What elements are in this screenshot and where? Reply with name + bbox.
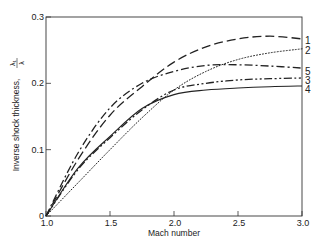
line-chart: 1.01.52.02.53.000.10.20.3 12345 Mach num… (0, 0, 322, 250)
plot-border (46, 17, 302, 216)
axis-ticks: 1.01.52.02.53.000.10.20.3 (31, 12, 309, 228)
x-tick-label: 2.5 (233, 218, 246, 228)
chart-container: 1.01.52.02.53.000.10.20.3 12345 Mach num… (0, 0, 322, 250)
curve-label-5: 5 (305, 66, 311, 77)
curve-4 (46, 86, 302, 216)
x-tick-label: 2.0 (169, 218, 182, 228)
x-tick-label: 3.0 (297, 218, 310, 228)
curve-3 (46, 78, 302, 216)
y-axis-fraction-numerator: λ₁ (9, 59, 16, 66)
x-tick-label: 1.5 (105, 218, 118, 228)
curve-label-4: 4 (305, 84, 311, 95)
curve-labels: 12345 (305, 35, 311, 95)
y-axis-title-text: Inverse shock thickness, (11, 79, 21, 172)
curve-1 (46, 36, 302, 216)
y-axis-fraction-denominator: λ (18, 61, 25, 65)
y-tick-label: 0.3 (31, 12, 44, 22)
curve-label-2: 2 (305, 45, 311, 56)
y-tick-label: 0 (39, 211, 44, 221)
plot-frame (46, 17, 302, 216)
curve-2 (46, 49, 302, 216)
y-tick-label: 0.1 (31, 145, 44, 155)
y-tick-label: 0.2 (31, 78, 44, 88)
data-curves (46, 36, 302, 216)
y-axis-title: Inverse shock thickness, λ₁ λ (9, 58, 25, 171)
x-axis-title: Mach number (148, 228, 200, 238)
